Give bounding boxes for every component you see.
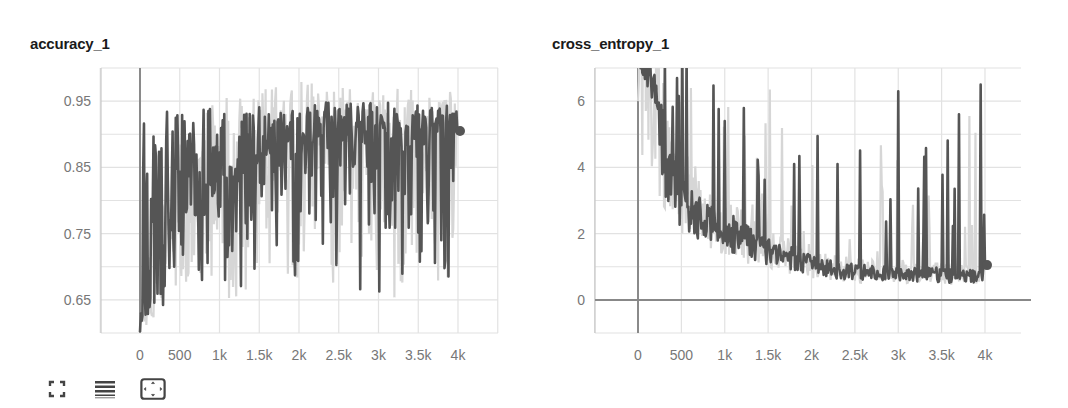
fit-domain-icon	[140, 377, 166, 401]
last-point-marker[interactable]	[982, 260, 992, 270]
x-tick-label: 4k	[451, 347, 467, 363]
fullscreen-button[interactable]	[44, 376, 70, 402]
x-tick-label: 4k	[978, 347, 994, 363]
accuracy-plot[interactable]: 0.950.850.750.6505001k1.5k2k2.5k3k3.5k4k	[0, 0, 534, 408]
fit-domain-button[interactable]	[140, 376, 166, 402]
y-tick-label: 0.65	[64, 292, 91, 308]
chart-toolbar	[44, 376, 166, 402]
x-tick-label: 3.5k	[928, 347, 955, 363]
y-tick-label: 0.85	[64, 159, 91, 175]
y-tick-label: 2	[577, 226, 585, 242]
x-tick-label: 1.5k	[755, 347, 782, 363]
y-tick-label: 4	[577, 159, 585, 175]
cross-entropy-chart-card: cross_entropy_1 642005001k1.5k2k2.5k3k3.…	[534, 0, 1068, 408]
y-tick-label: 6	[577, 93, 585, 109]
x-tick-label: 2.5k	[326, 347, 353, 363]
cross-entropy-plot[interactable]: 642005001k1.5k2k2.5k3k3.5k4k	[534, 0, 1068, 408]
x-tick-label: 3k	[371, 347, 387, 363]
y-tick-label: 0.75	[64, 226, 91, 242]
x-tick-label: 1k	[717, 347, 733, 363]
accuracy-chart-card: accuracy_1 0.950.850.750.6505001k1.5k2k2…	[0, 0, 534, 408]
x-tick-label: 2.5k	[842, 347, 869, 363]
last-point-marker[interactable]	[455, 126, 465, 136]
x-tick-label: 3k	[891, 347, 907, 363]
x-tick-label: 2k	[804, 347, 820, 363]
x-tick-label: 3.5k	[405, 347, 432, 363]
y-tick-label: 0	[577, 292, 585, 308]
x-tick-label: 1k	[212, 347, 228, 363]
x-tick-label: 500	[670, 347, 694, 363]
x-tick-label: 0	[136, 347, 144, 363]
x-tick-label: 0	[634, 347, 642, 363]
x-tick-label: 2k	[292, 347, 308, 363]
y-tick-label: 0.95	[64, 93, 91, 109]
data-series-icon	[94, 379, 116, 399]
x-tick-label: 1.5k	[246, 347, 273, 363]
expand-icon	[47, 379, 67, 399]
x-tick-label: 500	[168, 347, 192, 363]
log-scale-button[interactable]	[92, 376, 118, 402]
